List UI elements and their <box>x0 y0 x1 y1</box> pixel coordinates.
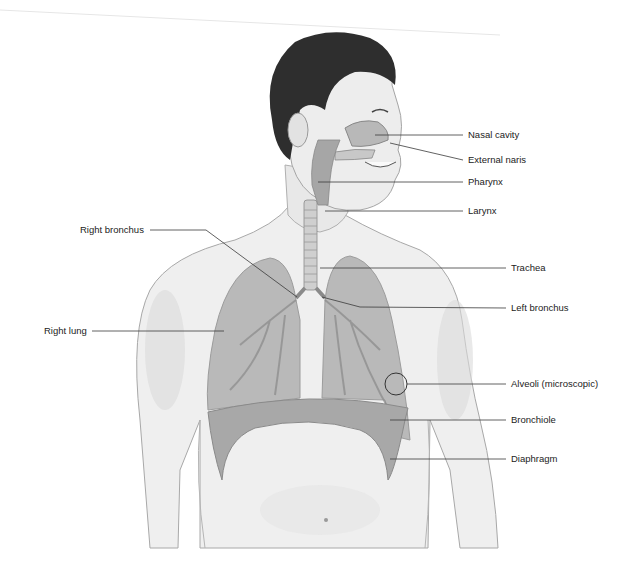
label-larynx: Larynx <box>468 205 497 217</box>
label-left-bronchus: Left bronchus <box>511 302 569 314</box>
label-right-lung: Right lung <box>44 325 87 337</box>
anatomy-illustration <box>0 0 627 564</box>
label-trachea: Trachea <box>511 262 546 274</box>
label-external-naris: External naris <box>468 154 526 166</box>
label-bronchiole: Bronchiole <box>511 414 556 426</box>
label-right-bronchus: Right bronchus <box>80 224 144 236</box>
label-alveoli: Alveoli (microscopic) <box>511 378 598 390</box>
label-pharynx: Pharynx <box>468 176 503 188</box>
label-diaphragm: Diaphragm <box>511 453 557 465</box>
respiratory-diagram: Nasal cavity External naris Pharynx Lary… <box>0 0 627 564</box>
label-nasal-cavity: Nasal cavity <box>468 129 519 141</box>
